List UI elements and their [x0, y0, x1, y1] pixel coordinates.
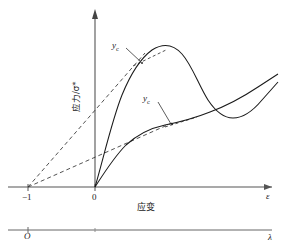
y-axis-arrow-icon [92, 9, 98, 19]
tangent-point-upper [141, 62, 143, 64]
x-axis-arrow-icon [264, 184, 272, 190]
annotation-yc-upper: yc [112, 41, 119, 52]
tangent-line-upper [28, 53, 145, 187]
annotation-yc-upper-sub: c [116, 45, 119, 52]
leader-line-yc-upper [126, 48, 141, 62]
y-axis-label: 应力/σ* [72, 81, 81, 112]
x-axis-symbol-epsilon: ε [266, 192, 270, 201]
y-axis-group [92, 9, 98, 187]
tangent-line-lower [28, 123, 172, 187]
plot-canvas [0, 0, 288, 251]
stress-strain-figure: 应力/σ* −1 0 ε 应变 O λ yc yc [0, 0, 288, 251]
lambda-axis-origin-label: O [24, 232, 31, 241]
lower-stress-strain-curve [95, 74, 278, 187]
x-axis-title: 应变 [137, 203, 155, 212]
annotation-yc-lower: yc [143, 94, 150, 105]
x-tick-label-zero: 0 [92, 193, 97, 202]
dashed-tangent-lines [28, 53, 172, 187]
annotation-yc-lower-sub: c [147, 98, 150, 105]
tangent-point-lower [171, 123, 173, 125]
x-tick-label-minus-one: −1 [22, 193, 32, 202]
x-axis-group [8, 184, 272, 191]
annotation-leaders [126, 48, 171, 124]
lambda-axis-symbol: λ [268, 233, 272, 242]
upper-stress-strain-curve [95, 45, 278, 187]
leader-line-yc-lower [158, 102, 171, 124]
lambda-axis-group [8, 227, 272, 233]
